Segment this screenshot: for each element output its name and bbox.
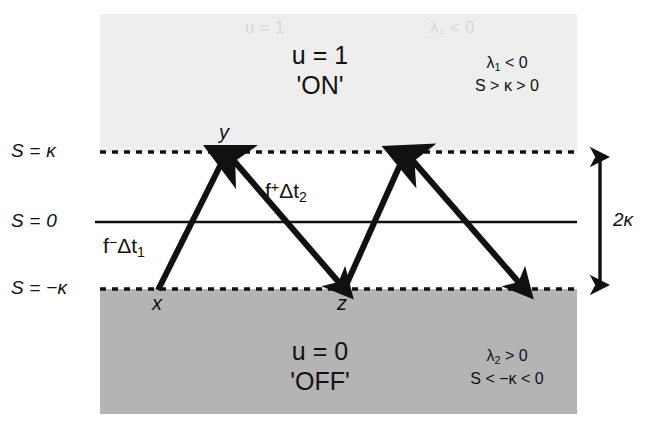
falling-flux-sign: +	[271, 179, 279, 195]
off-region-label: u = 0 'OFF'	[255, 338, 385, 395]
off-region-name: 'OFF'	[255, 368, 385, 394]
rising-delta-t: Δt	[117, 234, 137, 257]
falling-delta-t: Δt	[279, 179, 299, 202]
on-region-conditions: λ1 < 0 S > κ > 0	[437, 52, 577, 96]
axis-label-lower-threshold: S = −κ	[11, 278, 67, 298]
on-region-name: 'ON'	[255, 72, 385, 98]
band-gap-value: 2	[613, 209, 624, 230]
ghost-bleed-line2: λ₁ < 0	[430, 18, 475, 38]
off-lambda-relation: > 0	[500, 347, 527, 364]
band-gap-label: 2κ	[613, 210, 633, 230]
rising-segment-label: f−Δt1	[103, 235, 145, 260]
falling-delta-index: 2	[299, 189, 307, 205]
rising-delta-index: 1	[137, 244, 145, 260]
ghost-bleed-line1: u = 1	[245, 18, 285, 38]
falling-segment-label: f+Δt2	[265, 180, 307, 205]
axis-label-upper-threshold: S = κ	[11, 141, 56, 161]
on-lambda-condition: λ1 < 0	[437, 52, 577, 75]
trajectory-segment-y-to-z	[228, 154, 342, 286]
node-label-y: y	[219, 122, 229, 143]
off-s-condition: S < −κ < 0	[437, 368, 577, 390]
axis-label-zero: S = 0	[11, 211, 57, 231]
on-region-label: u = 1 'ON'	[255, 42, 385, 99]
switching-diagram: u = 1 λ₁ < 0 S = κ S = 0 S = −κ u = 1 'O…	[0, 0, 653, 439]
off-lambda-condition: λ2 > 0	[437, 345, 577, 368]
on-lambda-relation: < 0	[500, 54, 527, 71]
off-region-equation: u = 0	[292, 337, 348, 365]
off-region-conditions: λ2 > 0 S < −κ < 0	[437, 345, 577, 389]
trajectory-segment-apex2-to-end	[407, 154, 522, 286]
node-label-x: x	[152, 293, 162, 314]
band-gap-symbol: κ	[624, 209, 634, 230]
node-label-z: z	[337, 293, 347, 314]
rising-flux-sign: −	[109, 234, 117, 250]
on-region-equation: u = 1	[292, 41, 348, 69]
on-s-condition: S > κ > 0	[437, 75, 577, 97]
